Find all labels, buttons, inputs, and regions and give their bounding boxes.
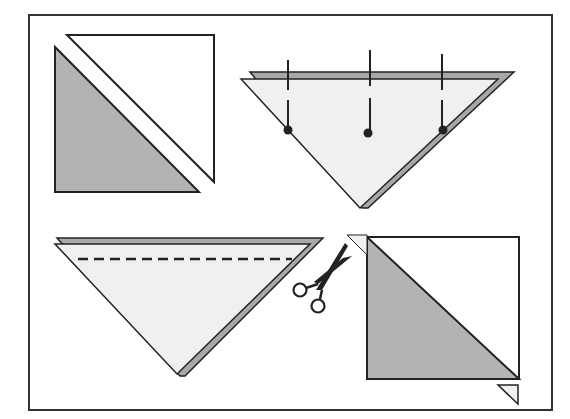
pin-head-icon	[364, 129, 373, 138]
front-fabric-layer	[55, 244, 310, 374]
pin-head-icon	[439, 126, 448, 135]
trimmed-dog-ear-top	[347, 235, 367, 255]
pin-head-icon	[284, 126, 293, 135]
trimmed-dog-ear-bottom	[498, 385, 518, 404]
step-1-separated-triangles	[55, 35, 214, 192]
step-3-stitched-triangles	[55, 238, 323, 376]
step-2-pinned-triangles	[241, 50, 514, 208]
step-4-opened-square	[347, 235, 519, 404]
quilting-diagram	[0, 0, 570, 419]
